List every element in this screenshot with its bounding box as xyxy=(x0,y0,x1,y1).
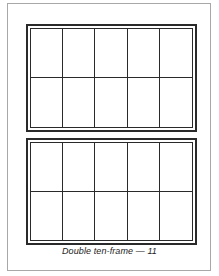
caption: Double ten-frame — 11 xyxy=(0,246,219,256)
frame-cell xyxy=(95,192,127,241)
frame-cell xyxy=(63,29,95,78)
frame-cell xyxy=(128,29,160,78)
frame-cell xyxy=(31,143,63,192)
ten-frame-bottom xyxy=(26,138,197,245)
frame-cell xyxy=(128,78,160,127)
frame-cell xyxy=(160,143,192,192)
frame-cell xyxy=(31,78,63,127)
frame-cell xyxy=(160,78,192,127)
frame-cell xyxy=(95,143,127,192)
ten-frame-grid xyxy=(30,28,193,128)
ten-frame-top xyxy=(26,24,197,132)
ten-frame-grid xyxy=(30,142,193,241)
frame-cell xyxy=(63,143,95,192)
frame-cell xyxy=(128,143,160,192)
frame-cell xyxy=(160,29,192,78)
frame-cell xyxy=(31,192,63,241)
frame-cell xyxy=(95,78,127,127)
frame-cell xyxy=(95,29,127,78)
frame-cell xyxy=(128,192,160,241)
frame-cell xyxy=(63,192,95,241)
frame-cell xyxy=(63,78,95,127)
frame-cell xyxy=(160,192,192,241)
frame-cell xyxy=(31,29,63,78)
